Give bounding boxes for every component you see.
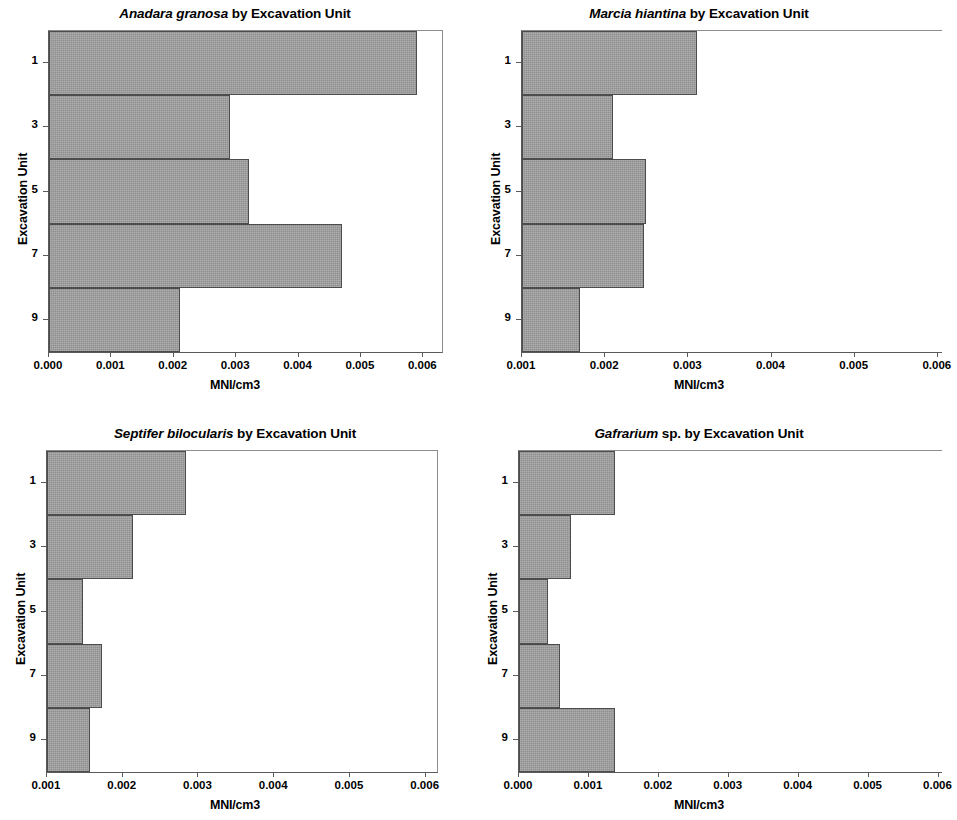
- y-axis-tick: [513, 739, 518, 740]
- y-axis-tick-label: 9: [478, 731, 508, 743]
- x-axis-tick: [687, 352, 688, 357]
- y-axis-tick: [513, 546, 518, 547]
- x-axis-tick: [48, 352, 49, 357]
- y-axis-tick: [516, 126, 521, 127]
- x-axis-tick-label: 0.001: [491, 359, 551, 371]
- x-axis-tick-label: 0.001: [16, 779, 76, 791]
- x-axis-tick-label: 0.004: [268, 359, 328, 371]
- x-axis-tick-label: 0.006: [395, 779, 455, 791]
- bar: [47, 708, 90, 772]
- x-axis-tick: [728, 772, 729, 777]
- y-axis-tick: [43, 191, 48, 192]
- y-axis-tick-label: 5: [478, 603, 508, 615]
- x-axis-tick-label: 0.006: [392, 359, 452, 371]
- y-axis-tick: [516, 62, 521, 63]
- y-axis-tick-label: 5: [8, 183, 38, 195]
- chart-panel-gafrarium-sp: Gafrarium sp. by Excavation Unit Excavat…: [471, 420, 941, 820]
- x-axis-tick: [46, 772, 47, 777]
- x-axis-tick-label: 0.005: [319, 779, 379, 791]
- y-axis-title: Excavation Unit: [486, 573, 500, 665]
- y-axis-tick-label: 1: [478, 474, 508, 486]
- x-axis-tick: [798, 772, 799, 777]
- plot-area: [521, 30, 942, 353]
- bar: [522, 31, 697, 95]
- bar: [49, 95, 230, 159]
- chart-panel-anadara-granosa: Anadara granosa by Excavation Unit Excav…: [0, 0, 470, 410]
- y-axis-tick-label: 1: [6, 474, 36, 486]
- bar: [519, 708, 615, 772]
- y-axis-tick-label: 7: [6, 667, 36, 679]
- y-axis-tick: [41, 546, 46, 547]
- y-axis-title: Excavation Unit: [489, 153, 503, 245]
- y-axis-tick-label: 3: [6, 538, 36, 550]
- x-axis-tick: [360, 352, 361, 357]
- plot-area: [48, 30, 443, 353]
- y-axis-tick: [43, 62, 48, 63]
- y-axis-tick: [516, 319, 521, 320]
- chart-panel-septifer-bilocularis: Septifer bilocularis by Excavation Unit …: [0, 420, 470, 820]
- x-axis-tick: [658, 772, 659, 777]
- y-axis-tick: [43, 126, 48, 127]
- bar: [522, 224, 644, 288]
- y-axis-tick: [513, 482, 518, 483]
- bar: [47, 451, 186, 515]
- x-axis-tick-label: 0.004: [768, 779, 828, 791]
- x-axis-title: MNI/cm3: [471, 798, 941, 812]
- bar: [519, 451, 615, 515]
- y-axis-tick: [41, 739, 46, 740]
- chart-title-species: Septifer bilocularis: [114, 426, 234, 441]
- bar: [47, 515, 133, 579]
- x-axis-tick-label: 0.004: [243, 779, 303, 791]
- x-axis-tick-label: 0.003: [205, 359, 265, 371]
- y-axis-tick: [41, 675, 46, 676]
- x-axis-tick-label: 0.004: [741, 359, 801, 371]
- x-axis-tick: [122, 772, 123, 777]
- x-axis-tick-label: 0.003: [657, 359, 717, 371]
- bar: [522, 159, 646, 223]
- bar: [519, 644, 560, 708]
- chart-title: Septifer bilocularis by Excavation Unit: [0, 426, 470, 441]
- chart-title: Gafrarium sp. by Excavation Unit: [471, 426, 941, 441]
- x-axis-tick: [173, 352, 174, 357]
- y-axis-tick-label: 7: [478, 667, 508, 679]
- y-axis-tick: [41, 482, 46, 483]
- y-axis-tick-label: 5: [6, 603, 36, 615]
- x-axis-tick-label: 0.002: [92, 779, 152, 791]
- bar: [519, 579, 548, 643]
- chart-title-rest: by Excavation Unit: [690, 6, 809, 21]
- x-axis-tick: [273, 772, 274, 777]
- bar: [522, 95, 613, 159]
- y-axis-tick: [41, 611, 46, 612]
- x-axis-tick: [938, 772, 939, 777]
- bar: [49, 159, 249, 223]
- chart-title-species: Gafrarium: [594, 426, 658, 441]
- x-axis-tick-label: 0.001: [80, 359, 140, 371]
- bar: [49, 31, 417, 95]
- x-axis-tick-label: 0.005: [824, 359, 884, 371]
- x-axis-tick: [521, 352, 522, 357]
- x-axis-tick-label: 0.006: [908, 779, 957, 791]
- bar: [49, 288, 180, 352]
- bar: [47, 579, 83, 643]
- y-axis-tick: [513, 675, 518, 676]
- x-axis-tick-label: 0.005: [838, 779, 898, 791]
- x-axis-tick: [349, 772, 350, 777]
- chart-title: Anadara granosa by Excavation Unit: [0, 6, 470, 21]
- x-axis-tick: [110, 352, 111, 357]
- x-axis-tick-label: 0.001: [558, 779, 618, 791]
- x-axis-tick-label: 0.002: [628, 779, 688, 791]
- chart-title-rest: by Excavation Unit: [232, 6, 351, 21]
- x-axis-tick-label: 0.003: [698, 779, 758, 791]
- y-axis-tick-label: 7: [481, 247, 511, 259]
- bar: [522, 288, 580, 352]
- x-axis-tick: [588, 772, 589, 777]
- x-axis-tick: [937, 352, 938, 357]
- x-axis-tick-label: 0.002: [574, 359, 634, 371]
- x-axis-tick-label: 0.000: [488, 779, 548, 791]
- x-axis-tick-label: 0.006: [907, 359, 957, 371]
- bar: [49, 224, 342, 288]
- x-axis-tick-label: 0.005: [330, 359, 390, 371]
- y-axis-tick-label: 7: [8, 247, 38, 259]
- x-axis-tick: [425, 772, 426, 777]
